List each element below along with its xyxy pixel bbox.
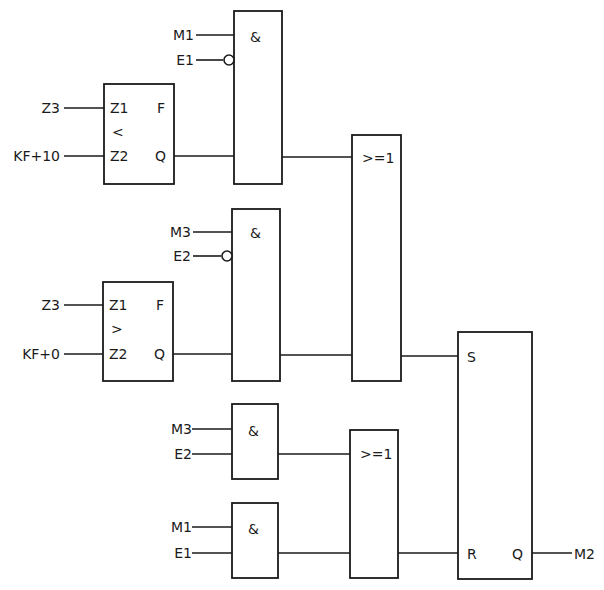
gate-label: &	[250, 225, 261, 241]
pin-label: Q	[155, 148, 166, 164]
signal-label: M3	[170, 224, 191, 240]
pin-label: Q	[512, 546, 523, 562]
or-gate-2: >=1	[350, 430, 458, 578]
gate-label: &	[248, 423, 259, 439]
signal-label: E2	[173, 248, 191, 264]
logic-diagram: Z3 KF+10 Z1 < Z2 F Q M1 E1 & Z3 KF+0 Z1 …	[0, 0, 604, 590]
signal-label: Z3	[42, 100, 61, 116]
gate-label: >=1	[360, 446, 392, 462]
gate-label: >=1	[362, 150, 394, 166]
negation-bubble	[224, 55, 234, 65]
comparator-less-than: Z3 KF+10 Z1 < Z2 F Q	[13, 84, 174, 184]
signal-label: E1	[176, 52, 194, 68]
gate-label: &	[248, 521, 259, 537]
sr-flip-flop: S R Q M2	[458, 332, 595, 579]
signal-label: KF+0	[22, 346, 60, 362]
and-gate-2: M3 E2 &	[170, 209, 280, 381]
pin-label: Z1	[109, 297, 128, 313]
signal-label: E1	[174, 545, 192, 561]
pin-label: Q	[154, 346, 165, 362]
pin-label: F	[157, 100, 165, 116]
pin-label: F	[156, 297, 164, 313]
operator-label: >	[111, 321, 123, 337]
comparator-greater-than: Z3 KF+0 Z1 > Z2 F Q	[22, 282, 173, 381]
signal-label: KF+10	[13, 148, 60, 164]
pin-label: Z1	[110, 100, 129, 116]
negation-bubble	[222, 251, 232, 261]
and-gate-1: M1 E1 &	[173, 11, 282, 184]
operator-label: <	[112, 124, 124, 140]
signal-label: M1	[173, 27, 194, 43]
pin-label: Z2	[110, 148, 129, 164]
pin-label: R	[467, 546, 477, 562]
signal-label: M3	[171, 421, 192, 437]
signal-label: M1	[171, 519, 192, 535]
pin-label: Z2	[109, 346, 128, 362]
pin-label: S	[467, 349, 476, 365]
signal-label: M2	[574, 546, 595, 562]
signal-label: Z3	[42, 297, 61, 313]
signal-label: E2	[174, 446, 192, 462]
or-gate-1: >=1	[280, 135, 458, 381]
and-gate-3: M3 E2 &	[171, 404, 350, 479]
and-gate-4: M1 E1 &	[171, 503, 350, 578]
gate-label: &	[250, 29, 261, 45]
